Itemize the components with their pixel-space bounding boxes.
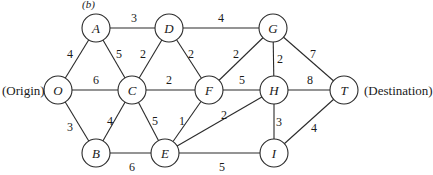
edge-weight-label: 2	[221, 108, 227, 122]
edge-weight-label: 2	[140, 47, 146, 61]
node-label: H	[268, 83, 279, 98]
edge-weight-label: 3	[276, 115, 282, 129]
node-e: E	[151, 139, 179, 167]
node-label: A	[91, 21, 100, 36]
network-graph: (b) 4633522424561252782534 OABCDEFGHIT (…	[0, 0, 433, 175]
edge-weight-label: 6	[93, 73, 99, 87]
node-label: E	[160, 146, 169, 161]
edge-weight-label: 8	[307, 73, 313, 87]
node-h: H	[260, 76, 288, 104]
node-c: C	[118, 76, 146, 104]
node-f: F	[195, 76, 223, 104]
edge-weight-label: 5	[239, 73, 245, 87]
edge-weight-label: 4	[311, 121, 317, 135]
node-label: F	[204, 83, 214, 98]
node-i: I	[260, 139, 288, 167]
edge-weight-label: 3	[131, 11, 137, 25]
origin-label: (Origin)	[2, 83, 45, 98]
edge-weight-label: 2	[188, 47, 194, 61]
edge-weight-label: 4	[107, 114, 113, 128]
node-label: I	[271, 146, 277, 161]
figure-label: (b)	[82, 0, 95, 11]
node-t: T	[330, 76, 358, 104]
edge-weight-label: 5	[116, 47, 122, 61]
node-b: B	[82, 139, 110, 167]
edge-weight-label: 3	[67, 120, 73, 134]
node-g: G	[259, 14, 287, 42]
edge-weight-label: 5	[219, 160, 225, 174]
destination-label: (Destination)	[364, 83, 433, 98]
edge-weight-label: 4	[67, 47, 73, 61]
node-label: G	[268, 21, 278, 36]
node-d: D	[155, 14, 183, 42]
node-a: A	[82, 14, 110, 42]
edge-weight-label: 1	[179, 114, 185, 128]
node-o: O	[44, 76, 72, 104]
edge-weight-label: 5	[152, 114, 158, 128]
node-label: O	[53, 83, 63, 98]
node-label: T	[340, 83, 348, 98]
edge-weight-label: 6	[129, 160, 135, 174]
edge-weight-label: 2	[233, 47, 239, 61]
edge-weight-label: 7	[310, 47, 316, 61]
edge-weight-label: 2	[166, 73, 172, 87]
node-label: D	[163, 21, 174, 36]
edge-weight-label: 4	[218, 11, 224, 25]
edge-weight-label: 2	[277, 52, 283, 66]
node-label: C	[128, 83, 137, 98]
node-label: B	[92, 146, 100, 161]
